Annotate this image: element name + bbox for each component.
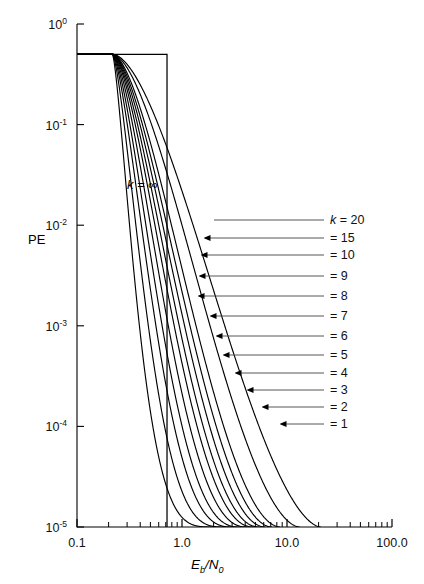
series-label: = 8 [330, 289, 348, 303]
x-axis-title: Eb/N0 [191, 557, 224, 575]
series-label: = 6 [330, 329, 348, 343]
chart-svg: 0.11.010.0100.010010-110-210-310-410-5 k… [0, 0, 424, 584]
y-tick-label: 10-4 [46, 418, 68, 434]
annotation-k-infinity: k = ∞ [127, 177, 158, 192]
x-axis-title-e: E [191, 557, 200, 572]
infinity-symbol: ∞ [148, 177, 157, 192]
y-axis-title: PE [28, 232, 45, 247]
leader-lines-group [204, 220, 324, 424]
curve--6 [77, 54, 254, 527]
series-label: = 2 [330, 400, 348, 414]
x-axis-title-n: N [209, 557, 219, 572]
curve--9 [77, 54, 272, 527]
x-tick-label: 100.0 [376, 536, 407, 550]
y-tick-label: 10-5 [46, 519, 68, 535]
series-label: = 15 [330, 231, 355, 245]
figure-error-probability-plot: 0.11.010.0100.010010-110-210-310-410-5 k… [0, 0, 424, 584]
series-label: = 3 [330, 383, 348, 397]
x-tick-label: 1.0 [173, 536, 190, 550]
series-label: = 7 [330, 309, 348, 323]
equals-symbol: = [137, 177, 145, 192]
series-label: = 10 [330, 248, 355, 262]
series-labels-group: k = 20= 15= 10= 9= 8= 7= 6= 5= 4= 3= 2= … [330, 213, 364, 431]
series-label: = 5 [330, 348, 348, 362]
curve--15 [77, 54, 300, 527]
series-label: = 1 [330, 417, 348, 431]
y-tick-label: 10-1 [46, 117, 68, 133]
tick-labels-group: 0.11.010.0100.010010-110-210-310-410-5 [46, 16, 408, 550]
curve--7 [77, 54, 259, 527]
curve--5 [77, 54, 247, 527]
x-tick-label: 0.1 [68, 536, 85, 550]
series-label: = 4 [330, 366, 348, 380]
k-symbol: k [127, 177, 134, 192]
curve-k-20 [77, 54, 321, 527]
x-axis-title-zero: 0 [219, 565, 224, 575]
data-curves-group [77, 54, 321, 527]
step-curve-path [77, 54, 167, 527]
curve--3 [77, 54, 233, 527]
series-label: k = 20 [330, 213, 364, 227]
step-curve-k-infinity [77, 54, 167, 527]
curve--1 [77, 54, 216, 527]
series-label: = 9 [330, 269, 348, 283]
x-tick-label: 10.0 [275, 536, 299, 550]
y-tick-label: 10-3 [46, 318, 68, 334]
y-tick-label: 10-2 [46, 217, 68, 233]
y-tick-label: 100 [48, 16, 67, 32]
curve--10 [77, 54, 280, 527]
